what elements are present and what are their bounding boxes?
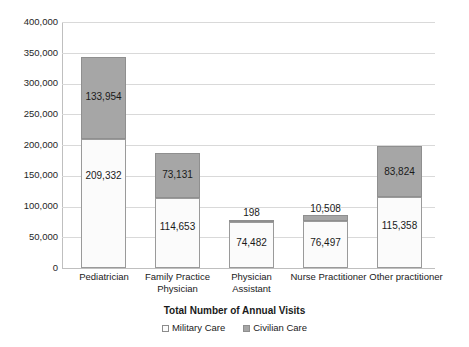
y-tick-label: 350,000 bbox=[0, 48, 58, 58]
bar-segment-military[interactable]: 209,332 bbox=[81, 139, 126, 268]
x-axis-category-labels: Pediatrician Family Practice Physician P… bbox=[62, 271, 435, 305]
y-tick-label: 100,000 bbox=[0, 201, 58, 211]
category-label-other-practitioner: Other practitioner bbox=[361, 271, 451, 283]
bar-value-label: 133,954 bbox=[82, 91, 125, 103]
category-label-family-practice-physician: Family Practice Physician bbox=[136, 271, 219, 294]
legend-label: Civilian Care bbox=[253, 322, 307, 334]
bar-group-pediatrician[interactable]: 209,332 133,954 bbox=[81, 57, 126, 268]
bar-group-family-practice-physician[interactable]: 114,653 73,131 bbox=[155, 153, 200, 268]
bar-segment-civilian[interactable]: 198 bbox=[229, 220, 274, 222]
y-tick-label: 400,000 bbox=[0, 17, 58, 27]
y-tick-label: 200,000 bbox=[0, 140, 58, 150]
y-tick-label: 150,000 bbox=[0, 170, 58, 180]
legend-item-military-care[interactable]: Military Care bbox=[162, 322, 225, 334]
gridline bbox=[62, 22, 435, 23]
bar-segment-military[interactable]: 74,482 bbox=[229, 222, 274, 268]
bar-group-physician-assistant[interactable]: 74,482 198 bbox=[229, 222, 274, 268]
category-label-nurse-practitioner: Nurse Practitioner bbox=[284, 271, 373, 283]
chart-legend: Military Care Civilian Care bbox=[0, 322, 469, 334]
y-axis-labels: 400,000 350,000 300,000 250,000 200,000 … bbox=[0, 0, 58, 347]
legend-swatch-icon bbox=[162, 325, 169, 332]
plot-area: 209,332 133,954 114,653 73,131 74,482 19… bbox=[62, 22, 435, 268]
bar-value-label: 74,482 bbox=[230, 237, 273, 249]
legend-label: Military Care bbox=[172, 322, 225, 334]
bar-value-label: 198 bbox=[230, 207, 273, 219]
bar-value-label: 83,824 bbox=[378, 166, 421, 178]
bar-segment-civilian[interactable]: 133,954 bbox=[81, 57, 126, 139]
bar-value-label: 114,653 bbox=[156, 221, 199, 233]
category-label-physician-assistant: Physician Assistant bbox=[213, 271, 290, 294]
legend-item-civilian-care[interactable]: Civilian Care bbox=[243, 322, 307, 334]
bar-segment-civilian[interactable]: 83,824 bbox=[377, 146, 422, 198]
bar-value-label: 209,332 bbox=[82, 170, 125, 182]
legend-swatch-icon bbox=[243, 325, 250, 332]
bar-segment-military[interactable]: 114,653 bbox=[155, 198, 200, 269]
x-axis-title: Total Number of Annual Visits bbox=[0, 305, 469, 317]
bar-group-other-practitioner[interactable]: 115,358 83,824 bbox=[377, 146, 422, 269]
bar-value-label: 115,358 bbox=[378, 220, 421, 232]
y-tick-label: 50,000 bbox=[0, 232, 58, 242]
y-tick-label: 0 bbox=[0, 263, 58, 273]
bar-value-label: 73,131 bbox=[156, 169, 199, 181]
bar-segment-military[interactable]: 115,358 bbox=[377, 197, 422, 268]
y-tick-label: 300,000 bbox=[0, 78, 58, 88]
y-tick-label: 250,000 bbox=[0, 109, 58, 119]
bar-segment-civilian[interactable]: 73,131 bbox=[155, 153, 200, 198]
bar-value-label: 76,497 bbox=[304, 237, 347, 249]
bar-segment-military[interactable]: 76,497 bbox=[303, 221, 348, 268]
gridline-baseline bbox=[62, 268, 435, 269]
bar-segment-civilian[interactable]: 10,508 bbox=[303, 215, 348, 221]
gridline bbox=[62, 53, 435, 54]
stacked-bar-chart: 400,000 350,000 300,000 250,000 200,000 … bbox=[0, 0, 469, 347]
bar-group-nurse-practitioner[interactable]: 76,497 10,508 bbox=[303, 215, 348, 269]
bar-value-label: 10,508 bbox=[304, 203, 347, 215]
